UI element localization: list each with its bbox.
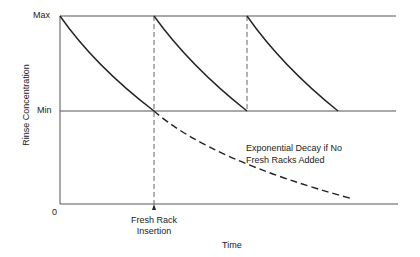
x-axis-label: Time xyxy=(222,240,242,251)
decay-curve-2 xyxy=(154,16,247,111)
fresh-rack-label-line2: Insertion xyxy=(124,226,184,237)
diagram-canvas xyxy=(0,0,420,257)
decay-curve-3 xyxy=(247,16,338,111)
insertion-arrow-icon xyxy=(152,204,156,210)
y-tick-zero: 0 xyxy=(52,207,57,218)
decay-curve-1 xyxy=(60,16,154,111)
decay-annotation-line1: Exponential Decay if No xyxy=(246,143,342,154)
y-axis-label: Rinse Concentration xyxy=(21,60,31,150)
y-tick-min: Min xyxy=(37,105,52,116)
y-tick-max: Max xyxy=(33,10,50,21)
fresh-rack-label-line1: Fresh Rack xyxy=(124,215,184,226)
decay-annotation-line2: Fresh Racks Added xyxy=(246,155,325,166)
